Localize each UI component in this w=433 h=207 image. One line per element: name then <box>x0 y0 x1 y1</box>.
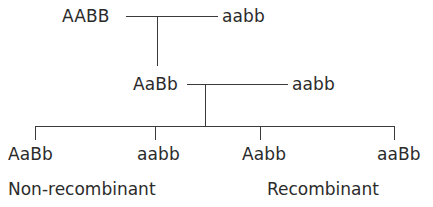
offspring-drop-line-2 <box>155 126 156 140</box>
parental-descent-line <box>157 16 158 66</box>
genetics-cross-diagram: AABB aabb AaBb aabb AaBb aabb Aabb aaBb … <box>0 0 433 207</box>
non-recombinant-caption: Non-recombinant <box>8 181 156 198</box>
f1-genotype: AaBb <box>133 76 178 93</box>
parent-1-genotype: AABB <box>62 8 109 25</box>
testcross-partner-genotype: aabb <box>292 76 335 93</box>
offspring-drop-line-3 <box>260 126 261 140</box>
offspring-drop-line-4 <box>394 126 395 140</box>
testcross-line <box>187 84 288 85</box>
recombinant-caption: Recombinant <box>267 181 379 198</box>
parent-2-genotype: aabb <box>222 8 265 25</box>
offspring-genotype-4: aaBb <box>377 146 421 163</box>
f1-descent-line <box>205 84 206 126</box>
offspring-drop-line-1 <box>35 126 36 140</box>
sibship-bar <box>35 126 394 127</box>
parental-cross-line <box>126 16 218 17</box>
offspring-genotype-3: Aabb <box>242 146 286 163</box>
offspring-genotype-2: aabb <box>137 146 180 163</box>
offspring-genotype-1: AaBb <box>8 146 53 163</box>
